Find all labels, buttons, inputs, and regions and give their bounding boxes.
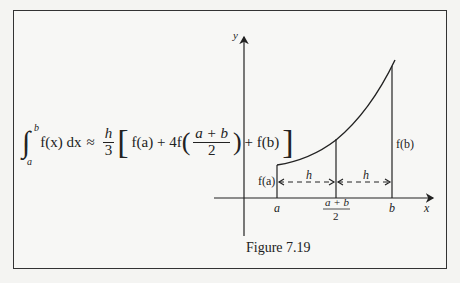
label-fa: f(a): [258, 174, 275, 189]
label-fb: f(b): [396, 137, 414, 152]
tick-mid-numerator: a + b: [323, 196, 351, 208]
h-label-right: h: [363, 168, 369, 183]
tick-mid-denominator: 2: [333, 210, 339, 222]
tick-a: a: [274, 201, 280, 216]
simpsons-diagram: [0, 0, 460, 283]
y-axis-label: y: [233, 29, 238, 41]
h-label-left: h: [306, 168, 312, 183]
x-axis-label: x: [424, 201, 429, 216]
tick-b: b: [389, 201, 395, 216]
figure-caption: Figure 7.19: [246, 240, 311, 256]
